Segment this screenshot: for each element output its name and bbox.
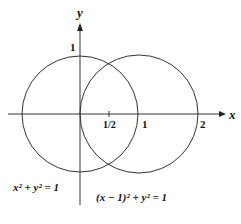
y-tick-one: 1 — [70, 41, 76, 53]
y-axis-label: y — [75, 5, 83, 20]
diagram-canvas: y x 1 1/2 1 2 x² + y² = 1 (x − 1)² + y² … — [0, 0, 241, 224]
y-axis-arrow-icon — [77, 23, 83, 31]
x-axis-arrow-icon — [219, 111, 226, 117]
x-tick-two: 2 — [200, 118, 206, 130]
x-axis-label: x — [228, 107, 236, 122]
equation-left: x² + y² = 1 — [12, 181, 59, 193]
equation-right: (x − 1)² + y² = 1 — [96, 191, 167, 204]
x-tick-half: 1/2 — [103, 119, 116, 130]
x-tick-one: 1 — [142, 118, 148, 130]
